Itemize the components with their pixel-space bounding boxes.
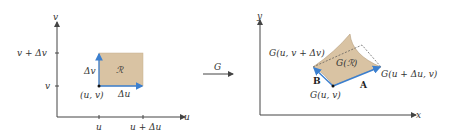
g-arrow-label: G (214, 62, 221, 72)
tick-label-v-plus-dv: v + Δv (17, 48, 47, 58)
base-point-label: G(u, v) (310, 90, 341, 100)
right-corner-label: G(u + Δu, v) (381, 69, 438, 79)
left-panel: v u v + Δv v u u + Δu ℛ Δv Δu (u, v) (17, 12, 190, 132)
du-label: Δu (117, 89, 130, 99)
tick-label-u-plus-du: u + Δu (130, 122, 162, 132)
base-point (332, 85, 335, 88)
vector-b-label: B (313, 76, 321, 86)
map-arrow: G (203, 62, 233, 74)
u-axis-label: u (184, 112, 190, 122)
tick-label-v: v (45, 81, 50, 91)
region-g-r-label: G(ℛ) (336, 58, 358, 68)
x-axis-label: x (416, 110, 421, 120)
diagram-canvas: v u v + Δv v u u + Δu ℛ Δv Δu (u, v) G y… (0, 0, 453, 135)
tick-label-u: u (96, 122, 102, 132)
right-panel: y x G(ℛ) G(u, v + Δv) G(u + Δu, v) G(u, … (256, 11, 438, 120)
v-axis-label: v (53, 12, 58, 22)
top-left-corner-label: G(u, v + Δv) (269, 48, 325, 58)
y-axis-label: y (256, 11, 263, 21)
region-r-label: ℛ (116, 65, 124, 75)
vector-a-label: A (359, 80, 368, 90)
dv-label: Δv (83, 66, 96, 76)
corner-point (98, 85, 101, 88)
corner-label: (u, v) (80, 90, 104, 100)
